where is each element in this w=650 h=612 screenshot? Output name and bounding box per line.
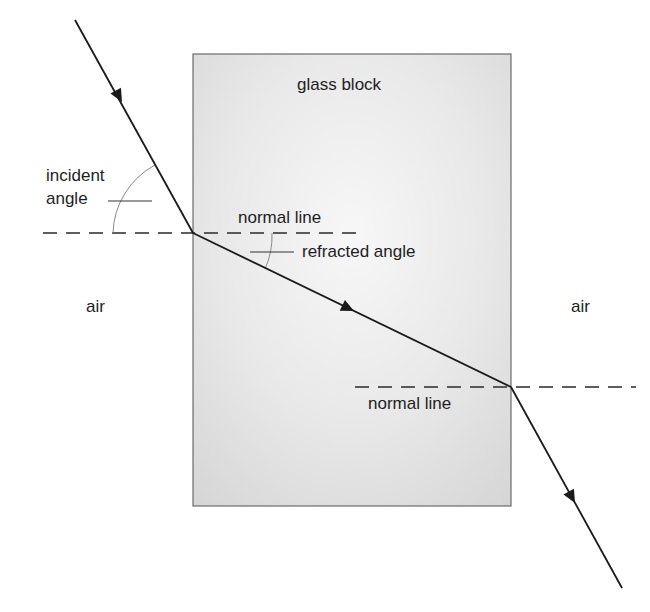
normal-line-bottom-label: normal line — [368, 395, 451, 412]
arrow-icon — [563, 489, 580, 506]
air-right-label: air — [571, 298, 590, 315]
air-left-label: air — [86, 298, 105, 315]
glass-block-label: glass block — [297, 76, 381, 93]
incident-angle-label-line1: incident — [46, 167, 105, 184]
emergent-ray — [511, 387, 622, 588]
refracted-angle-label: refracted angle — [302, 243, 415, 260]
glass-block — [193, 54, 511, 506]
incident-angle-label-line2: angle — [46, 190, 88, 207]
incident-angle-arc — [113, 165, 155, 233]
normal-line-top-label: normal line — [238, 209, 321, 226]
